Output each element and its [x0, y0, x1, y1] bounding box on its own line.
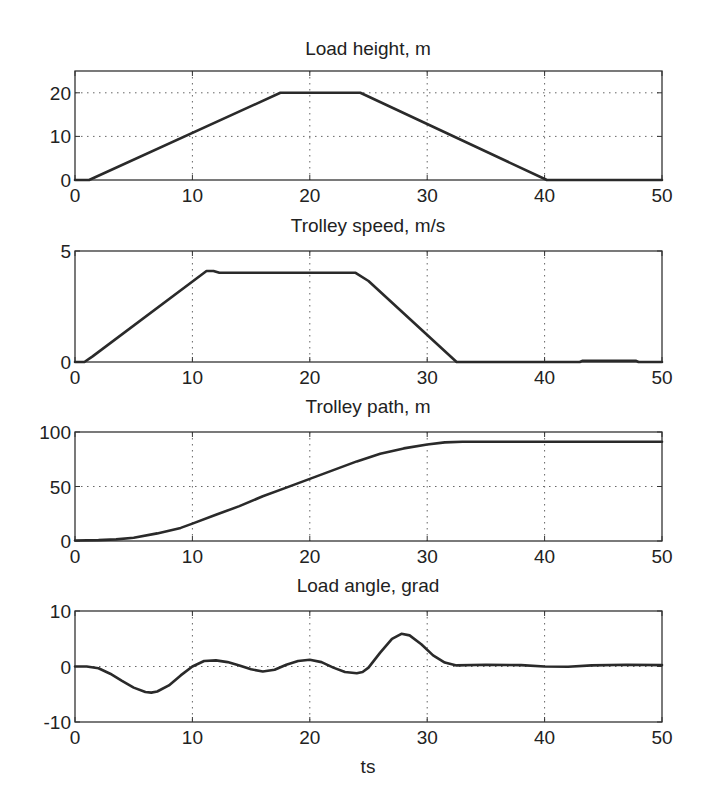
x-tick-label: 50: [651, 185, 672, 206]
subplot-title: Load angle, grad: [297, 575, 440, 596]
chart-canvas: Load height, m 0102030405001020 Trolley …: [0, 0, 710, 809]
grid-lines: [75, 71, 662, 180]
grid-lines: [75, 432, 662, 541]
x-axis-label: ts: [361, 756, 376, 777]
y-tick-label: 0: [60, 531, 71, 552]
x-tick-label: 50: [651, 727, 672, 748]
subplot-trolley-speed: Trolley speed, m/s 0102030405005: [60, 215, 672, 388]
x-tick-label: 10: [182, 546, 203, 567]
y-tick-label: 0: [60, 352, 71, 373]
y-tick-label: 10: [50, 126, 71, 147]
x-tick-label: 10: [182, 367, 203, 388]
y-tick-label: 50: [50, 477, 71, 498]
x-tick-label: 30: [417, 185, 438, 206]
x-tick-label: 50: [651, 546, 672, 567]
y-tick-label: 0: [60, 170, 71, 191]
axes-frame: [75, 71, 662, 180]
figure: Load height, m 0102030405001020 Trolley …: [0, 0, 710, 809]
x-axis-ticks: 01020304050: [70, 611, 673, 748]
x-tick-label: 0: [70, 367, 81, 388]
x-tick-label: 30: [417, 727, 438, 748]
subplot-load-angle: Load angle, grad ts 01020304050-10010: [44, 575, 673, 777]
x-tick-label: 20: [299, 546, 320, 567]
subplot-title: Trolley speed, m/s: [291, 215, 446, 236]
x-tick-label: 20: [299, 727, 320, 748]
x-tick-label: 40: [534, 185, 555, 206]
subplot-title: Trolley path, m: [306, 396, 431, 417]
x-tick-label: 0: [70, 185, 81, 206]
x-tick-label: 0: [70, 727, 81, 748]
x-tick-label: 10: [182, 185, 203, 206]
x-tick-label: 20: [299, 367, 320, 388]
subplot-title: Load height, m: [305, 38, 431, 59]
y-tick-label: 100: [39, 422, 71, 443]
data-line: [75, 442, 662, 541]
x-axis-ticks: 01020304050: [70, 432, 673, 567]
y-tick-label: -10: [44, 712, 71, 733]
data-line: [75, 634, 662, 693]
y-tick-label: 10: [50, 601, 71, 622]
x-axis-ticks: 01020304050: [70, 71, 673, 206]
x-tick-label: 10: [182, 727, 203, 748]
y-tick-label: 5: [60, 241, 71, 262]
x-tick-label: 50: [651, 367, 672, 388]
x-tick-label: 30: [417, 367, 438, 388]
x-tick-label: 0: [70, 546, 81, 567]
axes-frame: [75, 251, 662, 362]
x-axis-ticks: 01020304050: [70, 251, 673, 388]
y-tick-label: 20: [50, 83, 71, 104]
subplot-trolley-path: Trolley path, m 01020304050050100: [39, 396, 672, 567]
x-tick-label: 40: [534, 727, 555, 748]
y-axis-ticks: 05: [60, 241, 662, 373]
x-tick-label: 20: [299, 185, 320, 206]
y-tick-label: 0: [60, 657, 71, 678]
x-tick-label: 40: [534, 367, 555, 388]
subplot-load-height: Load height, m 0102030405001020: [50, 38, 673, 206]
x-tick-label: 30: [417, 546, 438, 567]
data-line: [75, 271, 662, 362]
grid-lines: [192, 251, 544, 362]
x-tick-label: 40: [534, 546, 555, 567]
